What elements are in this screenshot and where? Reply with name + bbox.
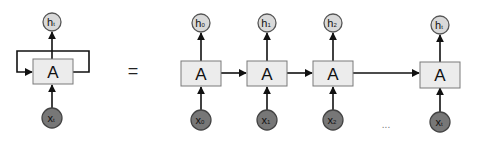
folded-rnn: A ht xt bbox=[17, 13, 89, 128]
rnn-cell-label: A bbox=[47, 63, 59, 82]
unrolled-cell-2: A h2 x2 bbox=[313, 14, 353, 130]
unrolled-cell-t: A ht xt bbox=[420, 16, 460, 132]
rnn-diagram: A ht xt = A h0 x0 A h1 bbox=[0, 0, 477, 141]
rnn-cell-label: A bbox=[327, 65, 339, 84]
rnn-cell-label: A bbox=[434, 66, 446, 85]
equals-sign: = bbox=[128, 61, 139, 81]
unrolled-cell-1: A h1 x1 bbox=[247, 14, 287, 130]
rnn-cell-label: A bbox=[195, 65, 207, 84]
ellipsis: ... bbox=[382, 119, 390, 130]
rnn-cell-label: A bbox=[261, 65, 273, 84]
unrolled-cell-0: A h0 x0 bbox=[181, 14, 221, 130]
unrolled-rnn: A h0 x0 A h1 x1 A h2 x2 bbox=[181, 14, 460, 132]
